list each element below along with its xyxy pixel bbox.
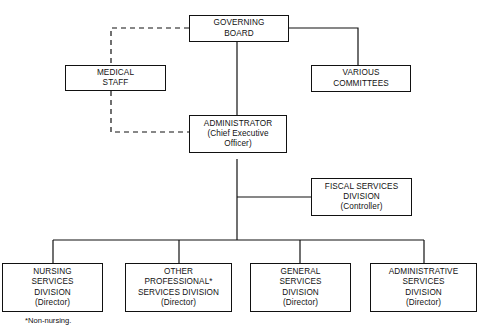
node-label: (Director) (406, 298, 441, 308)
node-label: (Chief Executive (207, 129, 268, 139)
node-label: DIVISION (405, 288, 442, 298)
node-label: (Controller) (340, 202, 382, 212)
governing-board-box: GOVERNING BOARD (189, 15, 289, 42)
node-label: SERVICES (279, 277, 321, 287)
node-label: GENERAL (281, 267, 321, 277)
node-label: MEDICAL (97, 68, 134, 78)
other-professional-services-box: OTHER PROFESSIONAL* SERVICES DIVISION (D… (125, 263, 232, 312)
node-label: SERVICES DIVISION (138, 288, 219, 298)
administrator-box: ADMINISTRATOR (Chief Executive Officer) (189, 115, 287, 153)
node-label: GOVERNING (214, 18, 265, 28)
fiscal-services-box: FISCAL SERVICES DIVISION (Controller) (311, 178, 412, 216)
various-committees-box: VARIOUS COMMITTEES (311, 65, 411, 92)
node-label: DIVISION (34, 288, 71, 298)
nursing-services-box: NURSING SERVICES DIVISION (Director) (2, 263, 103, 312)
node-label: (Director) (161, 298, 196, 308)
node-label: DIVISION (282, 288, 319, 298)
node-label: SERVICES (31, 277, 73, 287)
node-label: STAFF (103, 78, 129, 88)
node-label: OTHER (164, 267, 193, 277)
node-label: SERVICES (402, 277, 444, 287)
medical-staff-box: MEDICAL STAFF (65, 65, 166, 91)
node-label: PROFESSIONAL* (144, 277, 212, 287)
node-label: (Director) (283, 298, 318, 308)
node-label: BOARD (224, 29, 254, 39)
administrative-services-box: ADMINISTRATIVE SERVICES DIVISION (Direct… (370, 263, 477, 312)
node-label: ADMINISTRATOR (204, 119, 272, 129)
node-label: ADMINISTRATIVE (389, 267, 458, 277)
node-label: (Director) (35, 298, 70, 308)
node-label: DIVISION (343, 192, 380, 202)
node-label: VARIOUS (343, 68, 380, 78)
node-label: FISCAL SERVICES (325, 182, 398, 192)
node-label: COMMITTEES (333, 79, 389, 89)
node-label: Officer) (224, 139, 252, 149)
general-services-box: GENERAL SERVICES DIVISION (Director) (250, 263, 351, 312)
node-label: NURSING (33, 267, 71, 277)
footnote: *Non-nursing. (25, 316, 71, 325)
